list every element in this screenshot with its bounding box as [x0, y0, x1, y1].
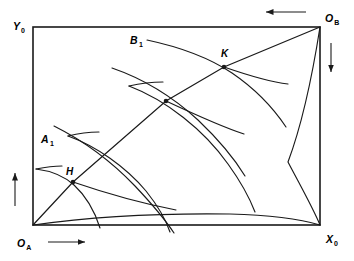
- curve-label-b1: B1: [130, 34, 143, 48]
- ob-origin-label: OB: [325, 12, 339, 26]
- point-k-dot: [222, 65, 227, 70]
- isoquant-tails-group: [36, 82, 163, 169]
- point-h-dot: [71, 180, 76, 185]
- y-axis-label: Y0: [13, 20, 25, 34]
- oa-origin-label-base: O: [17, 237, 25, 249]
- isoquant-a1-curve: [36, 169, 100, 228]
- curve-label-a1: A1: [40, 133, 54, 147]
- x-axis-label-sub: 0: [334, 240, 338, 247]
- y-axis-label-base: Y: [13, 20, 21, 32]
- isoquants-a-group: [36, 86, 255, 232]
- isoquant-b1-right-tail: [224, 67, 288, 84]
- point-label-k: K: [221, 48, 229, 59]
- curve-label-a1-base: A: [40, 133, 49, 145]
- curve-labels-group: B1 A1: [40, 34, 143, 147]
- point-labels-group: K H: [66, 48, 229, 177]
- point-label-h: H: [66, 166, 74, 177]
- isoquant-a2-tail: [68, 132, 99, 136]
- isoquant-b-tails-group: [73, 67, 288, 210]
- contract-curve: [33, 27, 320, 225]
- envelope-curves-group: [33, 27, 320, 225]
- point-mid-dot: [164, 99, 169, 104]
- isoquant-b3-right-tail: [73, 182, 176, 210]
- edgeworth-box-frame: [33, 27, 320, 225]
- ob-origin-label-base: O: [325, 12, 333, 24]
- curve-label-a1-sub: 1: [50, 140, 54, 147]
- x-axis-label-base: X: [325, 233, 334, 245]
- isoquant-b2-right-tail: [166, 101, 244, 134]
- ob-origin-label-sub: B: [334, 19, 339, 26]
- isoquant-b1-curve: [147, 40, 286, 127]
- oa-origin-label-sub: A: [26, 244, 31, 251]
- curve-label-b1-base: B: [130, 34, 138, 46]
- oa-origin-label: OA: [17, 237, 31, 251]
- isoquant-a3-tail: [129, 82, 163, 86]
- diagram-canvas: Y0 OB OA X0 B1 A1 K H: [0, 0, 354, 261]
- isoquant-a2-curve: [68, 136, 170, 232]
- edgeworth-box-figure: Y0 OB OA X0 B1 A1 K H: [0, 0, 354, 261]
- curve-label-b1-sub: 1: [139, 41, 143, 48]
- y-axis-label-sub: 0: [21, 27, 25, 34]
- envelope-lower-curve: [33, 214, 320, 225]
- x-axis-label: X0: [325, 233, 338, 247]
- isoquant-a1-tail: [36, 166, 62, 169]
- envelope-upper-curve: [288, 27, 320, 225]
